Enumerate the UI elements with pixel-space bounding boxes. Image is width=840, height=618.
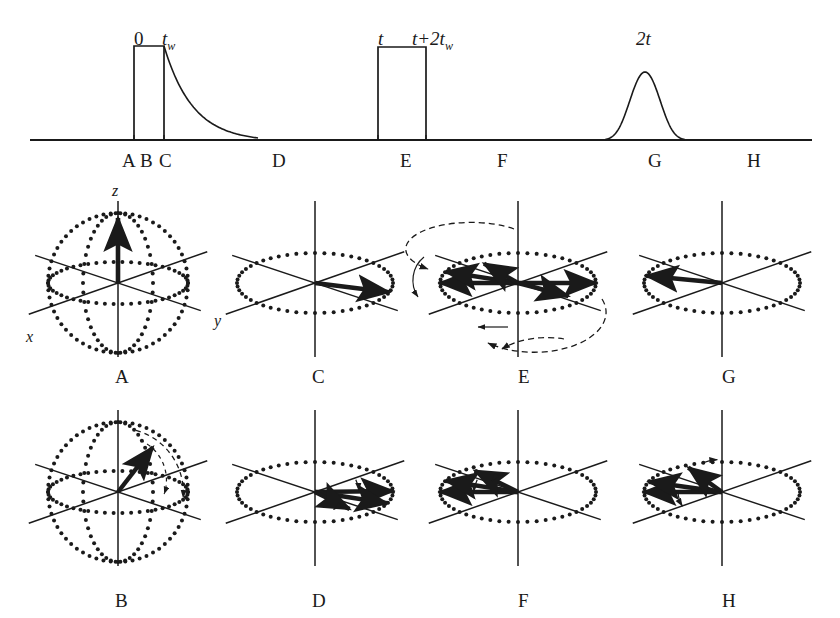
sphere-outline-dots bbox=[157, 224, 161, 228]
sphere-meridian-dots bbox=[82, 509, 86, 513]
transverse-plane-ellipse-dots bbox=[798, 490, 802, 494]
sphere-equator-dots bbox=[103, 469, 107, 473]
sphere-outline-dots bbox=[64, 328, 68, 332]
transverse-plane-ellipse-dots bbox=[304, 251, 308, 255]
sphere-meridian-dots bbox=[118, 560, 122, 564]
transverse-plane-ellipse-dots bbox=[535, 519, 539, 523]
sphere-meridian-dots bbox=[84, 253, 88, 257]
transverse-plane-ellipse-dots bbox=[796, 483, 800, 487]
transverse-plane-ellipse-dots bbox=[341, 518, 345, 522]
transverse-plane-ellipse-dots bbox=[294, 461, 298, 465]
sphere-equator-dots bbox=[78, 263, 82, 267]
sphere-meridian-dots bbox=[109, 212, 113, 216]
sphere-equator-dots bbox=[146, 471, 150, 475]
panel-D bbox=[226, 410, 404, 566]
sphere-outline-dots bbox=[69, 229, 73, 233]
transverse-plane-ellipse-dots bbox=[261, 303, 265, 307]
transverse-plane-ellipse-dots bbox=[580, 264, 584, 268]
transverse-plane-ellipse-dots bbox=[357, 515, 361, 519]
sphere-meridian-dots bbox=[150, 262, 154, 266]
sphere-meridian-dots bbox=[100, 343, 104, 347]
transverse-plane-ellipse-dots bbox=[676, 256, 680, 260]
sphere-equator-dots bbox=[51, 482, 55, 486]
transverse-plane-ellipse-dots bbox=[277, 517, 281, 521]
sphere-outline-dots bbox=[180, 309, 184, 313]
transverse-plane-ellipse-dots bbox=[593, 277, 597, 281]
transverse-plane-ellipse-dots bbox=[592, 497, 596, 501]
axis-label-z: z bbox=[112, 182, 118, 200]
transverse-plane-ellipse-dots bbox=[261, 259, 265, 263]
sphere-meridian-dots bbox=[89, 446, 93, 450]
sphere-outline-dots bbox=[173, 322, 177, 326]
seq-point-label-A: A bbox=[122, 150, 136, 172]
panel-label-A: A bbox=[115, 366, 129, 388]
transverse-plane-ellipse-dots bbox=[535, 461, 539, 465]
transverse-plane-ellipse-dots bbox=[544, 253, 548, 257]
panel-label-G: G bbox=[722, 366, 736, 388]
transverse-plane-ellipse-dots bbox=[793, 292, 797, 296]
sphere-meridian-dots bbox=[100, 428, 104, 432]
sphere-outline-dots bbox=[168, 234, 172, 238]
sphere-equator-dots bbox=[120, 260, 124, 264]
transverse-plane-ellipse-dots bbox=[798, 281, 802, 285]
sphere-meridian-dots bbox=[136, 338, 140, 342]
sphere-outline-dots bbox=[163, 542, 167, 546]
transverse-plane-ellipse-dots bbox=[651, 476, 655, 480]
seq-point-label-C: C bbox=[159, 150, 172, 172]
transverse-plane-ellipse-dots bbox=[294, 519, 298, 523]
panel-C bbox=[226, 201, 404, 357]
sphere-meridian-dots bbox=[136, 547, 140, 551]
sphere-equator-dots bbox=[78, 299, 82, 303]
sphere-outline-dots bbox=[151, 220, 155, 224]
transverse-plane-ellipse-dots bbox=[568, 512, 572, 516]
sphere-outline-dots bbox=[180, 253, 184, 257]
seq-point-label-G: G bbox=[648, 150, 662, 172]
transverse-plane-ellipse-dots bbox=[240, 479, 244, 483]
transverse-plane-ellipse-dots bbox=[748, 309, 752, 313]
transverse-plane-ellipse-dots bbox=[684, 517, 688, 521]
sphere-outline-dots bbox=[88, 554, 92, 558]
transverse-plane-ellipse-dots bbox=[585, 504, 589, 508]
transverse-plane-ellipse-dots bbox=[656, 298, 660, 302]
sphere-outline-dots bbox=[48, 505, 52, 509]
sphere-meridian-dots bbox=[132, 552, 136, 556]
transverse-plane-ellipse-dots bbox=[261, 512, 265, 516]
transverse-plane-ellipse-dots bbox=[389, 483, 393, 487]
sphere-meridian-dots bbox=[81, 281, 85, 285]
transverse-plane-ellipse-dots bbox=[357, 465, 361, 469]
panel-B bbox=[29, 410, 207, 566]
sphere-equator-dots bbox=[167, 476, 171, 480]
transverse-plane-ellipse-dots bbox=[357, 256, 361, 260]
transverse-plane-ellipse-dots bbox=[796, 274, 800, 278]
sphere-outline-dots bbox=[163, 333, 167, 337]
sphere-outline-dots bbox=[173, 240, 177, 244]
transverse-plane-ellipse-dots bbox=[507, 460, 511, 464]
transverse-plane-ellipse-dots bbox=[497, 310, 501, 314]
sphere-meridian-dots bbox=[148, 462, 152, 466]
sphere-equator-dots bbox=[146, 300, 150, 304]
isochromat-vector-0 bbox=[315, 283, 389, 292]
annotation-arc-0 bbox=[356, 480, 359, 491]
sphere-meridian-dots bbox=[82, 262, 86, 266]
sphere-equator-dots bbox=[177, 480, 181, 484]
transverse-plane-ellipse-dots bbox=[235, 490, 239, 494]
transverse-plane-ellipse-dots bbox=[236, 494, 240, 498]
transverse-plane-ellipse-dots bbox=[249, 507, 253, 511]
transverse-plane-ellipse-dots bbox=[797, 277, 801, 281]
sphere-equator-dots bbox=[59, 502, 63, 506]
transverse-plane-ellipse-dots bbox=[497, 461, 501, 465]
transverse-plane-ellipse-dots bbox=[552, 517, 556, 521]
sphere-meridian-dots bbox=[86, 526, 90, 530]
transverse-plane-ellipse-dots bbox=[452, 298, 456, 302]
transverse-plane-ellipse-dots bbox=[244, 267, 248, 271]
sphere-meridian-dots bbox=[81, 490, 85, 494]
sphere-meridian-dots bbox=[84, 462, 88, 466]
sphere-meridian-dots bbox=[118, 211, 122, 215]
transverse-plane-ellipse-dots bbox=[568, 259, 572, 263]
transverse-plane-ellipse-dots bbox=[651, 504, 655, 508]
flip-arc-right bbox=[502, 338, 564, 349]
sphere-meridian-dots bbox=[143, 325, 147, 329]
transverse-plane-ellipse-dots bbox=[237, 288, 241, 292]
sphere-meridian-dots bbox=[146, 526, 150, 530]
sphere-outline-dots bbox=[48, 475, 52, 479]
